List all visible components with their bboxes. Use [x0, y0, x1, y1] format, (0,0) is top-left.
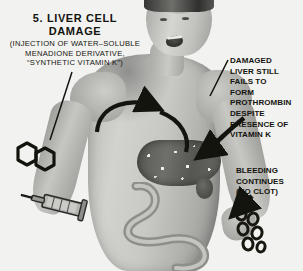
liver-note-line-4: FORM	[230, 88, 302, 99]
intestine-illustration	[118, 182, 226, 271]
blood-drops-illustration	[232, 206, 276, 258]
liver-note-line-1: DAMAGED	[230, 56, 302, 67]
left-eye-illustration	[160, 18, 167, 21]
bleeding-annotation: BLEEDING CONTINUES (NO CLOT)	[236, 166, 302, 198]
liver-note-line-5: PROTHROMBIN	[230, 98, 302, 109]
figure-subtitle-line-3: “SYNTHETIC VITAMIN K”)	[4, 58, 146, 68]
figure-title-line-1: 5. LIVER CELL	[4, 12, 146, 25]
figure-subtitle-line-2: MENADIONE DERIVATIVE,	[4, 49, 146, 59]
liver-note-line-7: PRESENCE OF	[230, 120, 302, 131]
figure-title-block: 5. LIVER CELL DAMAGE (INJECTION OF WATER…	[4, 12, 146, 68]
liver-note-line-6: DESPITE	[230, 109, 302, 120]
figure-subtitle-line-1: (INJECTION OF WATER–SOLUBLE	[4, 39, 146, 49]
damaged-liver-annotation: DAMAGED LIVER STILL FAILS TO FORM PROTHR…	[230, 56, 302, 141]
bleeding-note-line-1: BLEEDING	[236, 166, 302, 177]
figure-title-line-2: DAMAGE	[4, 25, 146, 38]
naphthoquinone-ring-icon	[14, 140, 60, 176]
hair-illustration	[144, 0, 214, 12]
liver-note-line-2: LIVER STILL	[230, 67, 302, 78]
liver-note-line-3: FAILS TO	[230, 77, 302, 88]
liver-note-line-8: VITAMIN K	[230, 130, 302, 141]
figure-title: 5. LIVER CELL DAMAGE	[4, 12, 146, 37]
bleeding-note-line-3: (NO CLOT)	[236, 187, 302, 198]
figure-subtitle: (INJECTION OF WATER–SOLUBLE MENADIONE DE…	[4, 39, 146, 68]
medical-illustration-figure: 5. LIVER CELL DAMAGE (INJECTION OF WATER…	[0, 0, 303, 271]
right-eye-illustration	[182, 17, 189, 20]
syringe-icon	[16, 186, 110, 230]
bleeding-note-line-2: CONTINUES	[236, 177, 302, 188]
